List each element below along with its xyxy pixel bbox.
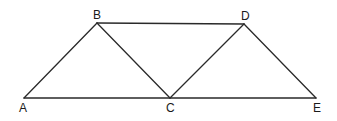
- segment-bd: [97, 23, 244, 24]
- label-e: E: [313, 101, 321, 115]
- segment-de: [244, 24, 316, 98]
- segment-bc: [97, 23, 170, 98]
- segment-cd: [170, 24, 244, 98]
- label-b: B: [93, 8, 101, 22]
- label-a: A: [19, 101, 27, 115]
- label-c: C: [166, 101, 175, 115]
- geometry-diagram: A B C D E: [0, 0, 337, 121]
- segment-ab: [24, 23, 97, 98]
- label-d: D: [241, 9, 250, 23]
